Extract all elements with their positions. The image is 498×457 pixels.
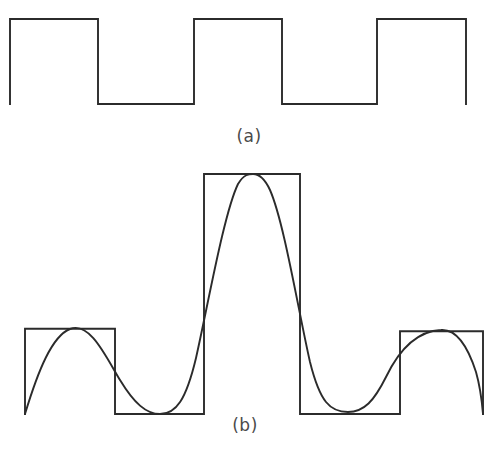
panel-b-caption: (b) [0,415,498,435]
panel-a-caption: (a) [0,126,498,146]
signal-figure [0,0,498,457]
panel-b-caption-text: (b) [232,415,258,435]
figure-background [0,0,498,457]
